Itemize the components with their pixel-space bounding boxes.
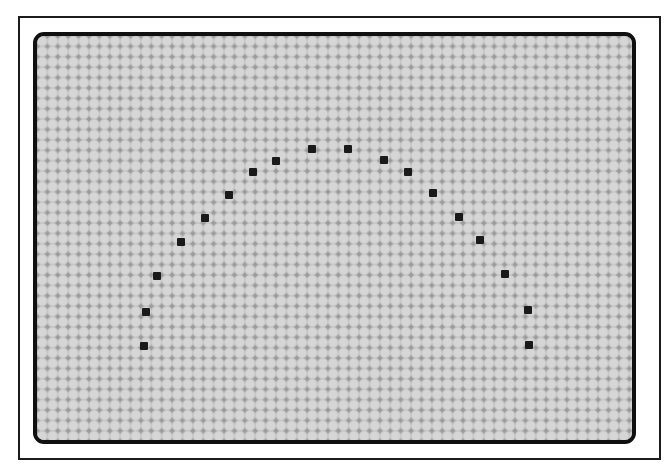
scanned-figure	[0, 0, 670, 473]
plotted-points-layer	[0, 0, 670, 473]
plotted-point	[404, 168, 412, 176]
plotted-point	[524, 306, 532, 314]
plotted-point	[501, 270, 509, 278]
plotted-point	[153, 272, 161, 280]
plotted-point	[177, 238, 185, 246]
plotted-point	[249, 168, 257, 176]
plotted-point	[201, 214, 209, 222]
plotted-point	[525, 341, 533, 349]
plotted-point	[272, 157, 280, 165]
plotted-point	[476, 236, 484, 244]
plotted-point	[140, 342, 148, 350]
plotted-point	[429, 189, 437, 197]
plotted-point	[308, 145, 316, 153]
plotted-point	[142, 308, 150, 316]
plotted-point	[225, 191, 233, 199]
plotted-point	[455, 213, 463, 221]
plotted-point	[380, 156, 388, 164]
plotted-point	[344, 145, 352, 153]
